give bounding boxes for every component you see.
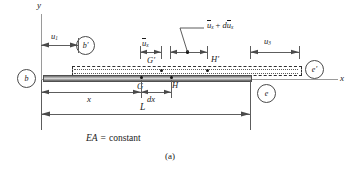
material-note-value: constant bbox=[109, 133, 141, 143]
arrowheads bbox=[41, 43, 299, 117]
material-note-prefix: EA bbox=[86, 133, 98, 143]
arrowhead-overlay bbox=[0, 0, 352, 169]
figure-axial-bar-deformation: y x b b′ e e′ G H G′ H′ u1 ux bbox=[0, 0, 352, 169]
material-note: EA=constant bbox=[86, 134, 141, 144]
figure-caption: (a) bbox=[165, 152, 175, 161]
material-note-equals: = bbox=[101, 133, 106, 143]
